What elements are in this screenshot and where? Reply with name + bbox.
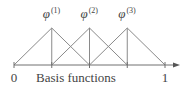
function-label-2: φ(2) xyxy=(81,6,99,21)
axis-start-label: 0 xyxy=(11,70,18,85)
function-label-1: φ(1) xyxy=(43,6,61,21)
axis-arrowhead xyxy=(173,63,180,68)
diagram-caption: Basis functions xyxy=(36,70,116,85)
basis-functions-diagram: φ(1)φ(2)φ(3) 0 1 Basis functions xyxy=(0,0,188,88)
function-label-3: φ(3) xyxy=(118,6,136,21)
axis-end-label: 1 xyxy=(162,70,169,85)
